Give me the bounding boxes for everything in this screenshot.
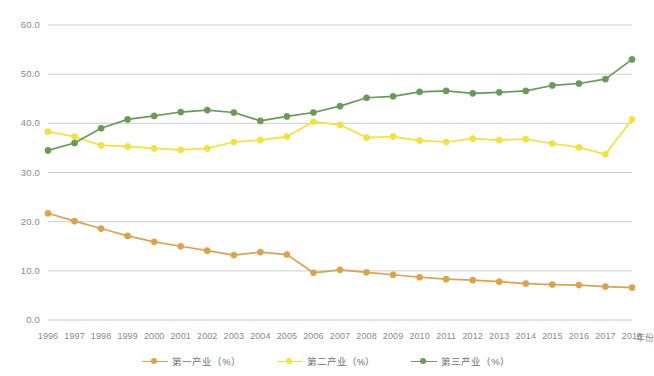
data-point[interactable]: [284, 252, 290, 258]
legend-label: 第二产业（%）: [307, 354, 375, 368]
data-point[interactable]: [71, 218, 77, 224]
data-point[interactable]: [390, 134, 396, 140]
data-point[interactable]: [363, 134, 369, 140]
data-point[interactable]: [204, 248, 210, 254]
data-point[interactable]: [284, 134, 290, 140]
data-point[interactable]: [231, 109, 237, 115]
data-point[interactable]: [363, 269, 369, 275]
data-point[interactable]: [417, 274, 423, 280]
data-point[interactable]: [602, 76, 608, 82]
y-tick-label: 0.0: [6, 314, 40, 325]
data-point[interactable]: [178, 243, 184, 249]
data-point[interactable]: [257, 137, 263, 143]
data-point[interactable]: [549, 282, 555, 288]
data-point[interactable]: [523, 88, 529, 94]
y-tick-label: 60.0: [6, 19, 40, 30]
data-point[interactable]: [390, 272, 396, 278]
data-point[interactable]: [98, 125, 104, 131]
data-point[interactable]: [496, 89, 502, 95]
data-point[interactable]: [417, 137, 423, 143]
data-point[interactable]: [151, 239, 157, 245]
data-point[interactable]: [310, 270, 316, 276]
data-point[interactable]: [523, 281, 529, 287]
series-3: [45, 56, 635, 153]
data-point[interactable]: [310, 109, 316, 115]
data-point[interactable]: [125, 233, 131, 239]
data-point[interactable]: [45, 210, 51, 216]
data-point[interactable]: [151, 145, 157, 151]
gridlines: [48, 25, 632, 320]
data-point[interactable]: [257, 118, 263, 124]
legend-item-3[interactable]: 第三产业（%）: [411, 354, 509, 368]
data-point[interactable]: [523, 136, 529, 142]
data-point[interactable]: [576, 144, 582, 150]
series-line: [48, 213, 632, 287]
series-2: [45, 116, 635, 157]
y-tick-label: 20.0: [6, 216, 40, 227]
data-point[interactable]: [98, 142, 104, 148]
data-point[interactable]: [443, 88, 449, 94]
data-point[interactable]: [310, 119, 316, 125]
data-point[interactable]: [549, 82, 555, 88]
data-point[interactable]: [363, 95, 369, 101]
data-point[interactable]: [496, 279, 502, 285]
data-point[interactable]: [178, 109, 184, 115]
data-point[interactable]: [337, 122, 343, 128]
legend-marker-icon: [277, 356, 303, 366]
data-point[interactable]: [337, 267, 343, 273]
data-point[interactable]: [390, 93, 396, 99]
data-point[interactable]: [178, 147, 184, 153]
data-point[interactable]: [231, 252, 237, 258]
data-point[interactable]: [125, 116, 131, 122]
data-point[interactable]: [45, 147, 51, 153]
y-tick-label: 30.0: [6, 167, 40, 178]
data-point[interactable]: [45, 129, 51, 135]
data-point[interactable]: [549, 140, 555, 146]
legend-item-2[interactable]: 第二产业（%）: [277, 354, 375, 368]
data-point[interactable]: [576, 282, 582, 288]
data-point[interactable]: [470, 277, 476, 283]
legend-label: 第三产业（%）: [441, 354, 509, 368]
chart-legend: 第一产业（%）第二产业（%）第三产业（%）: [0, 354, 652, 368]
data-series-group: [45, 56, 635, 290]
data-point[interactable]: [284, 113, 290, 119]
data-point[interactable]: [629, 116, 635, 122]
data-point[interactable]: [125, 143, 131, 149]
data-point[interactable]: [602, 283, 608, 289]
data-point[interactable]: [204, 145, 210, 151]
data-point[interactable]: [337, 103, 343, 109]
legend-item-1[interactable]: 第一产业（%）: [142, 354, 240, 368]
data-point[interactable]: [470, 90, 476, 96]
data-point[interactable]: [71, 140, 77, 146]
data-point[interactable]: [151, 113, 157, 119]
data-point[interactable]: [98, 225, 104, 231]
data-point[interactable]: [204, 107, 210, 113]
data-point[interactable]: [629, 56, 635, 62]
data-point[interactable]: [417, 89, 423, 95]
data-point[interactable]: [443, 139, 449, 145]
y-tick-label: 40.0: [6, 117, 40, 128]
data-point[interactable]: [257, 249, 263, 255]
data-point[interactable]: [602, 151, 608, 157]
data-point[interactable]: [496, 137, 502, 143]
data-point[interactable]: [470, 135, 476, 141]
data-point[interactable]: [443, 276, 449, 282]
data-point[interactable]: [71, 134, 77, 140]
legend-marker-icon: [411, 356, 437, 366]
data-point[interactable]: [231, 139, 237, 145]
data-point[interactable]: [576, 80, 582, 86]
series-1: [45, 210, 635, 290]
data-point[interactable]: [629, 284, 635, 290]
y-tick-label: 10.0: [6, 265, 40, 276]
legend-marker-icon: [142, 356, 168, 366]
x-axis-title: 年份: [636, 331, 654, 344]
y-tick-label: 50.0: [6, 68, 40, 79]
legend-label: 第一产业（%）: [172, 354, 240, 368]
